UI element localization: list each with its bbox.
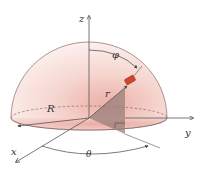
y-axis-label: y bbox=[184, 127, 191, 138]
radius-R-label: R bbox=[46, 103, 55, 114]
phi-label: φ bbox=[112, 49, 119, 60]
hemisphere-diagram: z y x R r φ θ bbox=[0, 0, 201, 170]
x-axis-label: x bbox=[11, 146, 17, 157]
z-axis-label: z bbox=[78, 13, 85, 24]
theta-label: θ bbox=[86, 149, 92, 159]
theta-angle-arc bbox=[42, 146, 148, 154]
